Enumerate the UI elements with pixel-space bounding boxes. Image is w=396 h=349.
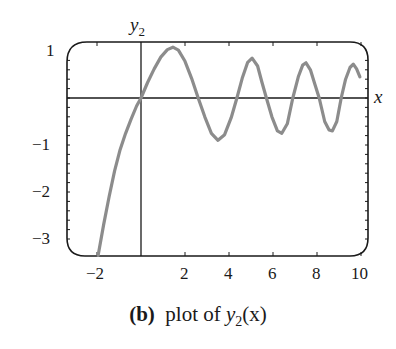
y-tick-label: −1	[32, 136, 50, 153]
x-tick-label: 4	[224, 265, 233, 282]
y-tick-label: −2	[32, 183, 50, 200]
x-axis-label: x	[374, 86, 382, 108]
x-tick-label: 8	[312, 265, 321, 282]
x-tick-label: −2	[86, 265, 104, 282]
x-tick-label: 10	[351, 265, 368, 282]
chart-plot-area	[0, 0, 396, 300]
y-axis-label: y2	[130, 14, 145, 40]
x-tick-label: 6	[268, 265, 277, 282]
caption-tag: (b)	[129, 302, 155, 326]
tick-marks	[67, 42, 368, 256]
x-tick-label: 2	[180, 265, 189, 282]
caption-text: plot of y2(x)	[160, 302, 267, 326]
y-tick-label: 1	[46, 42, 55, 59]
figure-caption: (b) plot of y2(x)	[0, 302, 396, 330]
y-tick-label: −3	[32, 230, 50, 247]
chart-frame	[67, 42, 368, 256]
data-series-y2	[98, 47, 360, 255]
